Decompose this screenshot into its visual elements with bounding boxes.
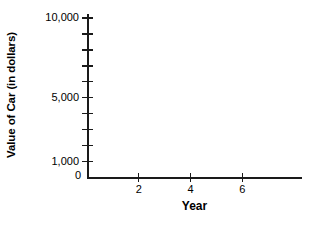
y-axis-tick — [82, 81, 93, 82]
y-axis-tick — [82, 129, 93, 130]
y-axis-tick — [82, 65, 93, 66]
y-axis-origin-label: 0 — [22, 170, 81, 181]
x-axis-tick — [190, 173, 191, 182]
x-axis-line — [87, 177, 302, 179]
y-axis-tick-label-text: 5,000 — [22, 92, 79, 103]
x-axis-tick-label: 6 — [227, 183, 257, 195]
y-axis-tick-label: 5,000 — [22, 92, 79, 103]
y-axis-tick — [82, 17, 93, 18]
y-axis-tick — [82, 113, 93, 114]
y-axis-tick — [82, 97, 93, 98]
plot-area — [89, 14, 302, 177]
y-axis-tick-label: 10,000 — [22, 12, 79, 23]
y-axis-title-text: Value of Car (in dollars) — [5, 32, 17, 158]
y-axis-tick-label-text: 10,000 — [22, 12, 79, 23]
y-axis-tick-label-text: 1,000 — [22, 156, 79, 167]
x-axis-tick-label: 2 — [124, 183, 154, 195]
y-axis-tick — [82, 33, 93, 34]
y-axis-tick — [82, 161, 93, 162]
x-axis-tick — [242, 173, 243, 182]
chart-figure: Value of Car (in dollars) 10,0005,0001,0… — [0, 0, 312, 231]
x-axis-title-text: Year — [182, 199, 207, 213]
y-axis-tick — [82, 145, 93, 146]
y-axis-tick — [82, 49, 93, 50]
x-axis-tick — [138, 173, 139, 182]
x-axis-tick-label: 4 — [176, 183, 206, 195]
y-axis-tick-label: 1,000 — [22, 156, 79, 167]
y-axis-title: Value of Car (in dollars) — [0, 0, 22, 190]
x-axis-title: Year — [87, 199, 302, 213]
